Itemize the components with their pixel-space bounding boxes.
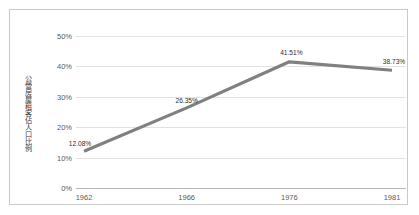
gridline-0 [76,188,406,189]
plot-area: 0%10%20%30%40%50% 1962196619761981 12.08… [76,36,406,188]
series-line [84,62,392,151]
data-label-1981: 38.73% [383,58,405,65]
chart-container: 公營房屋租客佔人口比例 0%10%20%30%40%50% 1962196619… [9,9,408,205]
y-tick-10: 10% [57,153,72,162]
y-tick-30: 30% [57,92,72,101]
data-label-1966: 26.35% [175,97,197,104]
y-tick-20: 20% [57,123,72,132]
x-tick-1966: 1966 [178,193,195,202]
line-series [76,36,406,188]
x-tick-1981: 1981 [384,193,401,202]
x-tick-1962: 1962 [76,193,93,202]
data-label-1976: 41.51% [280,49,302,56]
y-tick-0: 0% [61,184,72,193]
y-axis-title: 公營房屋租客佔人口比例 [20,48,36,178]
x-tick-1976: 1976 [281,193,298,202]
y-tick-40: 40% [57,62,72,71]
y-tick-50: 50% [57,32,72,41]
data-label-1962: 12.08% [69,140,91,147]
